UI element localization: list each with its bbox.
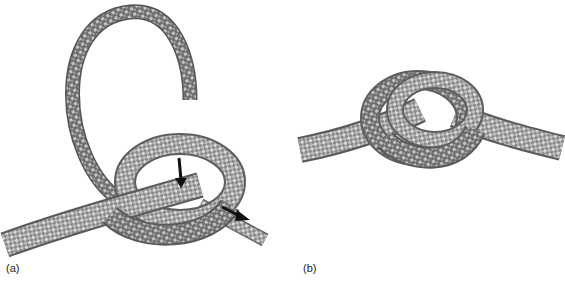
knot-in-progress-illustration xyxy=(0,0,290,288)
panel-a: (a) xyxy=(0,0,290,288)
panel-a-label: (a) xyxy=(6,262,19,274)
panel-b-label: (b) xyxy=(303,262,316,274)
finished-knot-illustration xyxy=(290,0,565,288)
panel-b: (b) xyxy=(290,0,565,288)
